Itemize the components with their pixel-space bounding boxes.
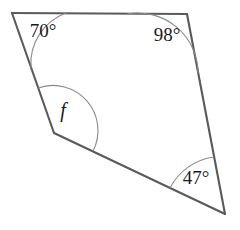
angle-arc-left-unknown — [38, 85, 98, 151]
angle-label-bottom-right: 47° — [183, 167, 210, 188]
angle-label-left-unknown: f — [60, 99, 68, 122]
geometry-canvas: 70° 98° 47° f — [0, 0, 240, 230]
top-edge — [12, 13, 187, 14]
angle-arcs — [31, 13, 214, 188]
angle-label-top-left: 70° — [30, 20, 57, 41]
geometry-figure: 70° 98° 47° f — [0, 0, 240, 230]
angle-label-top-right: 98° — [154, 24, 181, 45]
